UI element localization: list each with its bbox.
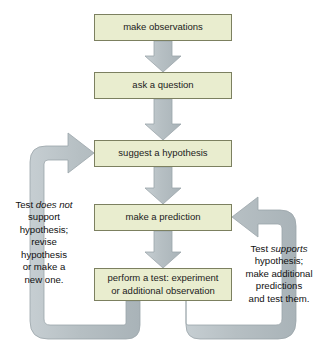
note-rest: hypothesis; make additional predictions …: [245, 255, 312, 303]
step-ask-a-question[interactable]: ask a question: [94, 72, 232, 99]
step-label: make a prediction: [122, 211, 205, 224]
note-test-supports: Test supports hypothesis; make additiona…: [234, 243, 324, 305]
step-perform-a-test[interactable]: perform a test: experiment or additional…: [94, 268, 232, 301]
note-emphasis: supports: [271, 243, 308, 254]
arrow-observations-to-question: [145, 41, 181, 72]
step-suggest-a-hypothesis[interactable]: suggest a hypothesis: [94, 140, 232, 167]
step-make-observations[interactable]: make observations: [94, 14, 232, 41]
note-rest: support hypothesis; revise hypothesis or…: [20, 211, 69, 284]
step-make-a-prediction[interactable]: make a prediction: [94, 204, 232, 231]
arrow-prediction-to-test: [145, 231, 181, 268]
scientific-method-flowchart: make observations ask a question suggest…: [0, 0, 326, 351]
note-emphasis: does not: [36, 199, 73, 210]
step-label: make observations: [119, 21, 207, 34]
note-prefix: Test: [250, 243, 270, 254]
step-label: suggest a hypothesis: [114, 147, 211, 160]
note-prefix: Test: [15, 199, 35, 210]
step-label: perform a test: experiment or additional…: [104, 272, 223, 298]
note-test-does-not-support: Test does not support hypothesis; revise…: [2, 199, 86, 286]
arrow-question-to-hypothesis: [145, 99, 181, 140]
step-label: ask a question: [128, 79, 197, 92]
arrow-hypothesis-to-prediction: [145, 167, 181, 204]
